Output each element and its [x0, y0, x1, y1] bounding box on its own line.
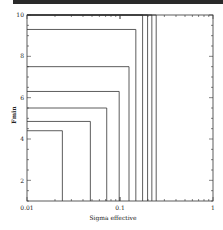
y-tick-4: 4 — [20, 135, 24, 142]
y-tick-10: 10 — [16, 11, 24, 18]
y-tick-6: 6 — [20, 94, 24, 101]
x-tick-0.1: 0.1 — [115, 204, 125, 211]
y-tick-2: 2 — [20, 177, 24, 184]
contour-2 — [27, 121, 90, 201]
contour-5 — [27, 67, 129, 201]
chart: 0.01 0.1 1 2 4 6 8 10 Sigma effective Fm… — [0, 0, 223, 230]
y-axis-label: Fmin — [10, 106, 17, 124]
x-tick-1: 1 — [211, 204, 215, 211]
y-tick-8: 8 — [20, 52, 24, 59]
contour-3 — [27, 108, 107, 201]
x-tick-0.01: 0.01 — [20, 204, 33, 211]
contour-1 — [27, 131, 62, 201]
contour-lines — [27, 15, 156, 201]
x-axis-label: Sigma effective — [89, 214, 136, 222]
